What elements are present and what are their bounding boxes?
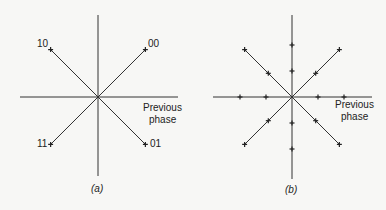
- phase-vector-10: [51, 50, 98, 97]
- caption-a: (a): [91, 183, 103, 194]
- marker-90-0.5: [290, 69, 295, 74]
- point-label-00: 00: [148, 38, 160, 49]
- marker-0-0.5: [316, 95, 321, 100]
- marker-180-1: [238, 95, 243, 100]
- axis-label-a-line2: phase: [149, 114, 177, 125]
- point-label-11: 11: [37, 138, 48, 149]
- marker-180-0.5: [264, 95, 269, 100]
- axis-label-b-line1: Previous: [335, 99, 374, 110]
- axis-label-b-line2: phase: [341, 111, 369, 122]
- phase-vector-01: [98, 97, 145, 144]
- marker-270-1: [290, 147, 295, 152]
- phase-vector-11: [51, 97, 98, 144]
- axis-label-a-line1: Previous: [143, 102, 182, 113]
- caption-b: (b): [285, 184, 297, 195]
- panel-b: Previous phase (b): [213, 15, 374, 195]
- diagram-canvas: Previous phase 10 00 11 01 (a) Previous …: [0, 0, 386, 210]
- panel-a: Previous phase 10 00 11 01 (a): [20, 15, 182, 194]
- marker-90-1: [290, 43, 295, 48]
- phase-vector-00: [98, 50, 145, 97]
- point-label-10: 10: [37, 38, 49, 49]
- marker-270-0.5: [290, 121, 295, 126]
- point-label-01: 01: [150, 138, 162, 149]
